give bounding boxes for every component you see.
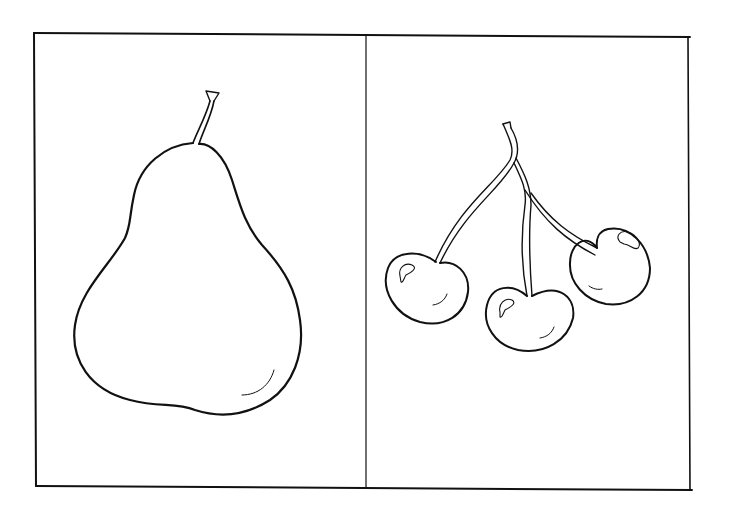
cherry-left [386, 254, 468, 324]
pear-icon [74, 91, 301, 415]
cherries-icon [386, 122, 650, 351]
frame [34, 33, 692, 490]
coloring-page [0, 0, 729, 515]
cherry-middle [486, 288, 573, 351]
